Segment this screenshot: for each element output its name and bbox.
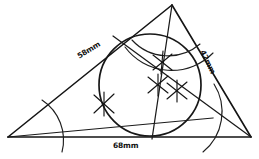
bisector-from-left-vertex	[8, 118, 213, 137]
triangle-side-left	[8, 5, 172, 137]
dimension-label-base: 68mm	[113, 142, 138, 150]
cross-mark-incenter	[148, 74, 168, 96]
geometry-drawing-canvas	[0, 0, 259, 159]
cross-mark-right	[167, 80, 187, 102]
construction-figure: 58mm 42mm 68mm	[0, 0, 259, 159]
cross-mark-left-bisector	[94, 92, 114, 116]
